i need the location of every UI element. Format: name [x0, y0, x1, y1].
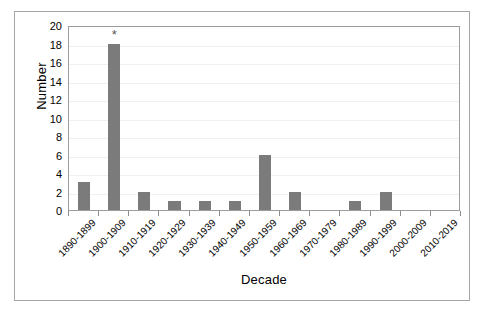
y-axis-tick-label: 4 — [32, 169, 62, 180]
bar — [199, 201, 211, 210]
bar-slot — [69, 27, 99, 210]
x-axis-tick — [249, 211, 250, 216]
x-axis-tick — [400, 211, 401, 216]
x-axis-tick — [279, 211, 280, 216]
bar — [78, 182, 90, 210]
x-axis-title: Decade — [68, 272, 460, 287]
y-axis-tick-label: 2 — [32, 188, 62, 199]
bar-slot — [401, 27, 431, 210]
bar — [380, 192, 392, 211]
bar-slot — [431, 27, 461, 210]
bar-slot — [250, 27, 280, 210]
y-axis-tick-label: 10 — [32, 114, 62, 125]
x-axis-tick — [339, 211, 340, 216]
y-axis-tick-label: 0 — [32, 206, 62, 217]
x-axis-tick-labels: 1890-18991900-19091910-19191920-19291930… — [68, 217, 460, 272]
y-axis-tick-label: 16 — [32, 58, 62, 69]
x-axis-tick — [128, 211, 129, 216]
bar-slot — [371, 27, 401, 210]
y-axis-tick-labels: 02468101214161820 — [28, 26, 62, 211]
x-axis-tick — [430, 211, 431, 216]
bar — [349, 201, 361, 210]
bar-slot — [220, 27, 250, 210]
bar-slot — [280, 27, 310, 210]
y-axis-tick-label: 6 — [32, 151, 62, 162]
y-axis-tick-label: 8 — [32, 132, 62, 143]
bar-slot — [190, 27, 220, 210]
x-axis-tick — [158, 211, 159, 216]
x-axis-tick — [219, 211, 220, 216]
bar-slot — [340, 27, 370, 210]
chart-figure: Number 02468101214161820 * 1890-18991900… — [0, 0, 487, 317]
bar-slot: * — [99, 27, 129, 210]
plot-area: * — [68, 26, 460, 211]
bar — [229, 201, 241, 210]
bars-layer: * — [69, 27, 459, 210]
y-axis-tick-label: 14 — [32, 77, 62, 88]
bar-slot — [159, 27, 189, 210]
bar — [259, 155, 271, 211]
x-axis-tick — [68, 211, 69, 216]
bar-slot — [129, 27, 159, 210]
x-axis-tick — [189, 211, 190, 216]
bar-annotation-asterisk: * — [99, 28, 129, 41]
x-axis-tick — [370, 211, 371, 216]
bar-slot — [310, 27, 340, 210]
bar — [168, 201, 180, 210]
bar — [138, 192, 150, 211]
y-axis-tick-label: 20 — [32, 21, 62, 32]
bar — [108, 44, 120, 211]
x-axis-tick — [460, 211, 461, 216]
bar — [289, 192, 301, 211]
x-axis-tick — [98, 211, 99, 216]
y-axis-tick-label: 12 — [32, 95, 62, 106]
x-axis-tick — [309, 211, 310, 216]
y-axis-tick-label: 18 — [32, 40, 62, 51]
